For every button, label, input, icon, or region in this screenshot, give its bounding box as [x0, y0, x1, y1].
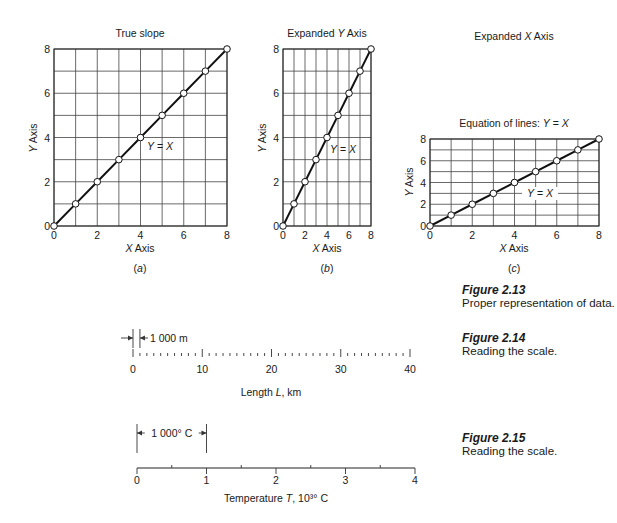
- x-tick-label: 8: [368, 229, 374, 241]
- line-annotation: Y = X: [527, 187, 554, 199]
- y-tick-label: 2: [273, 176, 279, 188]
- panel-label: (a): [134, 262, 147, 274]
- caption-figure-2-13: Figure 2.13 Proper representation of dat…: [462, 284, 615, 310]
- scale-tick-label: 20: [266, 363, 278, 375]
- data-point: [532, 168, 539, 175]
- chart-title: True slope: [115, 27, 164, 39]
- x-tick-label: 2: [94, 229, 100, 241]
- y-tick-label: 0: [44, 220, 50, 232]
- data-point: [596, 136, 603, 143]
- data-point: [302, 178, 309, 185]
- chart-panel-1: 0246802468Expanded Y AxisX AxisY Axis(b)…: [256, 27, 374, 274]
- x-tick-label: 2: [302, 229, 308, 241]
- scale-tick-label: 40: [404, 363, 416, 375]
- y-tick-label: 4: [420, 177, 426, 189]
- data-point: [224, 46, 231, 53]
- y-tick-label: 8: [273, 43, 279, 55]
- x-axis-label: X Axis: [311, 242, 341, 254]
- x-tick-label: 0: [280, 229, 286, 241]
- y-axis-label: Y Axis: [403, 167, 415, 196]
- x-tick-label: 6: [346, 229, 352, 241]
- data-point: [346, 90, 353, 97]
- x-tick-label: 0: [427, 229, 433, 241]
- callout-label: 1 000 m: [150, 332, 188, 344]
- x-tick-label: 2: [469, 229, 475, 241]
- x-tick-label: 8: [224, 229, 230, 241]
- data-point: [280, 223, 287, 230]
- x-axis-label: X Axis: [124, 242, 154, 254]
- data-point: [180, 90, 187, 97]
- scale-tick-label: 2: [273, 474, 279, 486]
- data-point: [490, 190, 497, 197]
- chart-panel-0: 0246802468True slopeX AxisY Axis(a)Y = X: [27, 27, 230, 274]
- y-axis-label: Y Axis: [27, 123, 39, 152]
- y-tick-label: 8: [420, 133, 426, 145]
- data-point: [357, 68, 364, 75]
- data-point: [313, 156, 320, 163]
- line-annotation: Y = X: [330, 143, 357, 155]
- y-axis-label: Y Axis: [256, 123, 268, 152]
- panel-label: (b): [321, 262, 334, 274]
- caption-number: Figure 2.14: [462, 332, 557, 345]
- scale-length: 010203040Length L, km1 000 m: [121, 329, 416, 398]
- y-tick-label: 8: [44, 43, 50, 55]
- data-point: [116, 156, 123, 163]
- data-point: [511, 179, 518, 186]
- x-tick-label: 4: [138, 229, 144, 241]
- chart-title: Expanded Y Axis: [287, 27, 366, 39]
- data-point: [291, 201, 298, 208]
- x-axis-label: X Axis: [498, 242, 528, 254]
- scale-tick-label: 10: [196, 363, 208, 375]
- y-tick-label: 4: [44, 132, 50, 144]
- data-point: [575, 147, 582, 154]
- x-tick-label: 6: [181, 229, 187, 241]
- y-tick-label: 6: [273, 87, 279, 99]
- scale-tick-label: 0: [134, 474, 140, 486]
- scale-tick-label: 30: [335, 363, 347, 375]
- data-point: [94, 178, 101, 185]
- caption-number: Figure 2.13: [462, 284, 615, 297]
- x-tick-label: 4: [512, 229, 518, 241]
- chart-panel-2: Expanded X Axis0246802468Equation of lin…: [403, 30, 602, 274]
- x-tick-label: 6: [554, 229, 560, 241]
- caption-figure-2-14: Figure 2.14 Reading the scale.: [462, 332, 557, 358]
- data-point: [368, 46, 375, 53]
- callout-label: 1 000° C: [151, 427, 192, 439]
- caption-text: Reading the scale.: [462, 445, 557, 457]
- y-tick-label: 0: [273, 220, 279, 232]
- x-tick-label: 0: [51, 229, 57, 241]
- x-tick-label: 4: [324, 229, 330, 241]
- data-point: [469, 201, 476, 208]
- line-annotation: Y = X: [147, 140, 174, 152]
- arrowhead-icon: [202, 431, 207, 436]
- panel-label: (c): [508, 262, 520, 274]
- data-point: [448, 212, 455, 219]
- scale-tick-label: 3: [343, 474, 349, 486]
- data-point: [553, 157, 560, 164]
- caption-figure-2-15: Figure 2.15 Reading the scale.: [462, 432, 557, 458]
- scale-tick-label: 0: [130, 363, 136, 375]
- x-tick-label: 8: [596, 229, 602, 241]
- arrowhead-icon: [137, 431, 142, 436]
- data-point: [335, 112, 342, 119]
- y-tick-label: 6: [420, 155, 426, 167]
- data-point: [51, 223, 58, 230]
- data-point: [159, 112, 166, 119]
- caption-text: Reading the scale.: [462, 345, 557, 357]
- scale-tick-label: 4: [412, 474, 418, 486]
- data-point: [137, 134, 144, 141]
- y-tick-label: 6: [44, 87, 50, 99]
- y-tick-label: 0: [420, 220, 426, 232]
- data-point: [202, 68, 209, 75]
- arrowhead-icon: [128, 336, 133, 341]
- y-tick-label: 4: [273, 132, 279, 144]
- caption-number: Figure 2.15: [462, 432, 557, 445]
- panel-heading: Expanded X Axis: [474, 30, 553, 42]
- scale-tick-label: 1: [204, 474, 210, 486]
- caption-text: Proper representation of data.: [462, 297, 615, 309]
- data-point: [324, 134, 331, 141]
- scale-axis-label: Temperature T, 10³° C: [224, 492, 328, 504]
- y-tick-label: 2: [420, 198, 426, 210]
- y-tick-label: 2: [44, 176, 50, 188]
- data-point: [427, 223, 434, 230]
